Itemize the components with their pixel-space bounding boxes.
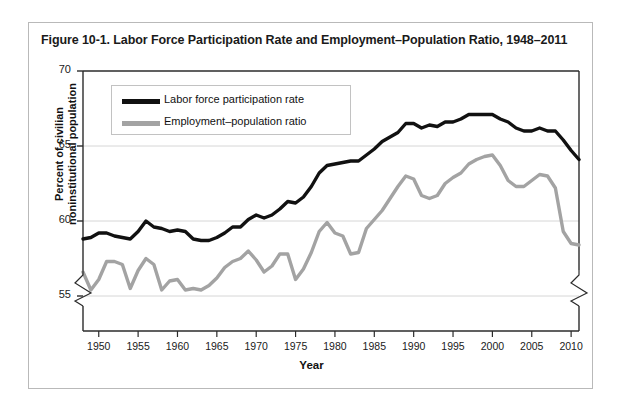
x-tick-label: 1965 [197,340,237,352]
chart-legend: Labor force participation rateEmployment… [111,85,351,135]
x-tick-label: 1970 [236,340,276,352]
data-series-lines [83,115,579,291]
y-tick-label: 70 [43,63,71,75]
chart-svg [29,23,594,390]
x-tick-label: 1960 [157,340,197,352]
x-tick-label: 1995 [433,340,473,352]
figure-frame: Figure 10-1. Labor Force Participation R… [28,22,593,389]
legend-color-swatch [122,99,160,104]
x-tick-label: 1990 [394,340,434,352]
y-axis-title-line2: noninstitutional population [66,83,78,225]
legend-label: Employment–population ratio [164,115,306,127]
x-tick-label: 2005 [512,340,552,352]
x-tick-label: 1975 [276,340,316,352]
axis-break-marks [75,270,587,306]
x-tick-label: 2000 [472,340,512,352]
y-tick-label: 60 [43,213,71,225]
x-tick-label: 1980 [315,340,355,352]
y-tick-label: 65 [43,138,71,150]
x-tick-label: 2010 [551,340,591,352]
y-tick-label: 55 [43,288,71,300]
legend-label: Labor force participation rate [164,93,304,105]
x-axis-ticks [99,331,571,337]
x-tick-label: 1955 [118,340,158,352]
legend-color-swatch [122,121,160,126]
y-axis-title-line1: Percent of civilian [53,107,65,201]
chart-plot-area: Percent of civilian noninstitutional pop… [29,23,594,390]
x-tick-label: 1950 [79,340,119,352]
x-tick-label: 1985 [354,340,394,352]
x-axis-title: Year [29,359,594,371]
